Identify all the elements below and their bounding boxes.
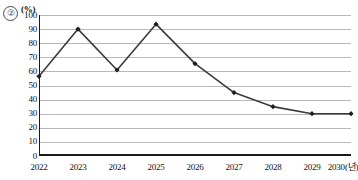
- data-point-marker: [348, 111, 353, 116]
- line-series: [39, 15, 351, 156]
- y-axis-tick-label: 100: [15, 11, 37, 20]
- x-axis-tick-label: 2030(년): [328, 162, 358, 172]
- x-axis-tick-label: 2027: [225, 162, 242, 172]
- y-axis-tick-label: 40: [15, 95, 37, 104]
- y-axis-tick-label: 0: [15, 152, 37, 161]
- y-axis-tick-label: 80: [15, 39, 37, 48]
- plot-area: [39, 15, 351, 156]
- x-axis-tick-label: 2022: [30, 162, 47, 172]
- y-axis-tick-label: 60: [15, 67, 37, 76]
- x-axis-tick-label: 2029: [303, 162, 320, 172]
- y-axis-tick-label: 50: [15, 81, 37, 90]
- x-axis-tick-label: 2028: [264, 162, 281, 172]
- x-axis-tick-label: 2023: [69, 162, 86, 172]
- y-axis-tick-label: 20: [15, 123, 37, 132]
- y-axis-tick-label: 90: [15, 25, 37, 34]
- series-polyline: [39, 24, 351, 114]
- data-point-marker: [270, 104, 275, 109]
- x-axis-tick-label: 2024: [108, 162, 125, 172]
- y-axis-tick-label: 10: [15, 137, 37, 146]
- y-axis-tick-labels: 1009080706050403020100: [14, 15, 37, 156]
- x-axis-tick-label: 2025: [147, 162, 164, 172]
- y-axis-tick-label: 30: [15, 109, 37, 118]
- x-axis-tick-label: 2026: [186, 162, 203, 172]
- y-axis-tick-label: 70: [15, 53, 37, 62]
- x-axis-tick-labels: 202220232024202520262027202820292030(년): [39, 160, 351, 176]
- data-point-marker: [309, 111, 314, 116]
